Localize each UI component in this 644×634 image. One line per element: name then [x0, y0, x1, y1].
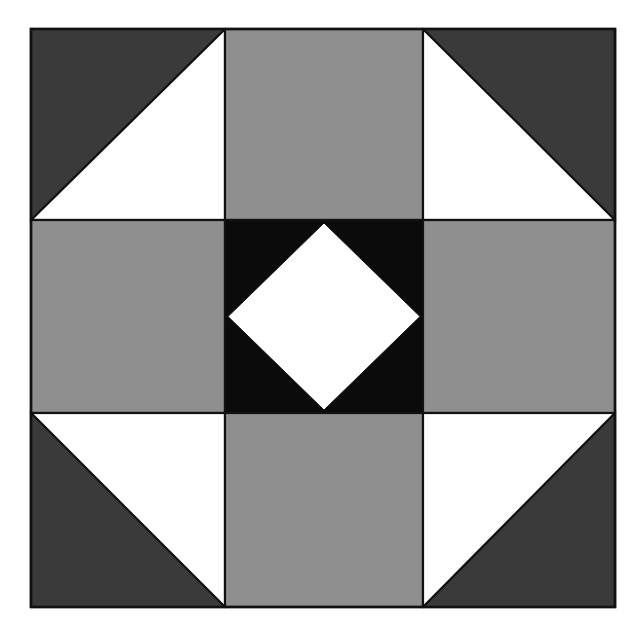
- cell-middle-right: [423, 220, 615, 413]
- quilt-block: [31, 29, 615, 607]
- quilt-block-canvas: [0, 0, 644, 634]
- cell-middle-left: [31, 220, 225, 413]
- quilt-block-diagram: [0, 0, 644, 634]
- cell-top-center: [225, 29, 423, 220]
- cell-bottom-center: [225, 413, 423, 607]
